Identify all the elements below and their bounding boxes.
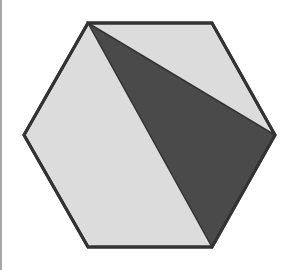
hexagon-figure	[0, 0, 295, 270]
